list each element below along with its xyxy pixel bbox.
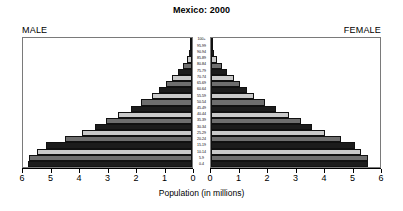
pyramid-row-female-20-24 [211,136,380,142]
bar-female-25-29 [211,130,325,136]
bar-female-80-84 [211,63,222,69]
bar-female-75-79 [211,69,227,75]
bar-female-10-14 [211,149,361,155]
pyramid-row-male-65-69 [23,81,192,87]
bar-male-15-19 [46,142,192,148]
pyramid-row-female-40-44 [211,112,380,118]
bar-female-0-4 [211,161,368,167]
pyramid-row-male-55-59 [23,93,192,99]
bar-female-60-64 [211,87,247,93]
pyramid-row-male-50-54 [23,99,192,105]
bar-female-40-44 [211,112,289,118]
pyramid-row-female-30-34 [211,124,380,130]
bar-male-40-44 [118,112,192,118]
pyramid-row-female-15-19 [211,142,380,148]
bar-male-45-49 [131,106,192,112]
bar-male-5-9 [29,155,192,161]
bar-female-15-19 [211,142,355,148]
bar-female-45-49 [211,106,276,112]
bar-male-90-94 [189,50,192,56]
pyramid-row-female-10-14 [211,149,380,155]
pyramid-row-male-85-89 [23,56,192,62]
pyramid-row-female-95-99 [211,44,380,50]
pyramid-row-male-95-99 [23,44,192,50]
population-pyramid-chart: Mexico: 2000 MALE FEMALE 0-45-910-1415-1… [0,0,403,211]
pyramid-row-male-80-84 [23,63,192,69]
bar-male-20-24 [65,136,192,142]
bar-female-95-99 [211,44,213,50]
bar-female-70-74 [211,75,234,81]
page-title: Mexico: 2000 [0,5,403,15]
female-x-tick-labels: 0123456 [210,173,381,185]
pyramid-row-male-0-4 [23,161,192,167]
bar-female-5-9 [211,155,368,161]
pyramid-row-female-25-29 [211,130,380,136]
pyramid-row-female-5-9 [211,155,380,161]
x-tick-label-5: 5 [350,173,355,183]
bar-male-50-54 [141,99,192,105]
bar-female-50-54 [211,99,265,105]
x-tick-label-2: 2 [264,173,269,183]
bar-male-65-69 [166,81,192,87]
pyramid-row-male-75-79 [23,69,192,75]
bar-male-95-99 [190,44,192,50]
age-label-0-4: 0-4 [193,162,210,168]
pyramid-row-female-90-94 [211,50,380,56]
pyramid-row-female-70-74 [211,75,380,81]
pyramid-row-female-0-4 [211,161,380,167]
bar-female-35-39 [211,118,301,124]
pyramid-row-female-35-39 [211,118,380,124]
bar-male-55-59 [152,93,192,99]
age-group-axis: 0-45-910-1415-1920-2425-2930-3435-3940-4… [193,37,210,168]
pyramid-row-female-75-79 [211,69,380,75]
pyramid-row-male-20-24 [23,136,192,142]
pyramid-row-male-15-19 [23,142,192,148]
bar-male-80-84 [183,63,192,69]
bar-female-100plus [211,38,213,44]
female-plot-area [210,37,381,168]
bar-male-100plus [190,38,192,44]
bar-male-0-4 [28,161,192,167]
pyramid-row-male-25-29 [23,130,192,136]
pyramid-row-female-85-89 [211,56,380,62]
x-tick-label-5: 5 [48,173,53,183]
x-tick-label-4: 4 [76,173,81,183]
bar-female-85-89 [211,56,217,62]
pyramid-row-male-100plus [23,38,192,44]
bar-male-60-64 [159,87,192,93]
x-tick-label-4: 4 [321,173,326,183]
bar-male-70-74 [172,75,192,81]
bar-male-85-89 [187,56,192,62]
x-tick-label-6: 6 [378,173,383,183]
x-tick-label-0: 0 [207,173,212,183]
pyramid-row-female-65-69 [211,81,380,87]
x-tick-label-0: 0 [190,173,195,183]
male-x-tick-labels: 6543210 [22,173,193,185]
bar-female-30-34 [211,124,312,130]
bar-female-90-94 [211,50,214,56]
x-tick-label-1: 1 [162,173,167,183]
male-plot-area [22,37,193,168]
bar-male-30-34 [95,124,192,130]
pyramid-row-male-35-39 [23,118,192,124]
pyramid-row-female-80-84 [211,63,380,69]
pyramid-row-male-5-9 [23,155,192,161]
bar-male-75-79 [178,69,192,75]
x-axis-title: Population (in millions) [0,188,403,198]
pyramid-row-male-70-74 [23,75,192,81]
pyramid-row-female-55-59 [211,93,380,99]
x-tick-label-3: 3 [105,173,110,183]
pyramid-row-male-60-64 [23,87,192,93]
female-side-label: FEMALE [344,25,381,35]
bar-female-65-69 [211,81,240,87]
pyramid-row-female-100plus [211,38,380,44]
pyramid-row-male-90-94 [23,50,192,56]
pyramid-row-male-30-34 [23,124,192,130]
bar-male-35-39 [106,118,192,124]
x-tick-label-3: 3 [293,173,298,183]
x-tick-label-6: 6 [19,173,24,183]
bar-male-25-29 [82,130,192,136]
pyramid-row-female-50-54 [211,99,380,105]
male-side-label: MALE [22,25,47,35]
bar-female-20-24 [211,136,341,142]
